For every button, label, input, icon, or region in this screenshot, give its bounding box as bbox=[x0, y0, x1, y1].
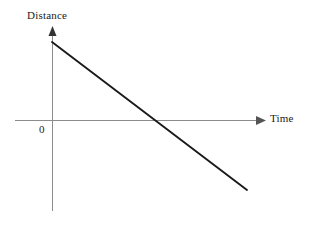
graph-canvas bbox=[0, 0, 314, 225]
x-axis-arrowhead bbox=[256, 116, 266, 125]
origin-label: 0 bbox=[39, 124, 45, 135]
y-axis-arrowhead bbox=[49, 26, 57, 36]
data-line-negative-slope bbox=[52, 42, 247, 190]
x-axis-label: Time bbox=[270, 113, 294, 124]
y-axis-label: Distance bbox=[27, 10, 67, 21]
distance-time-graph-figure: Distance Time 0 bbox=[0, 0, 314, 225]
